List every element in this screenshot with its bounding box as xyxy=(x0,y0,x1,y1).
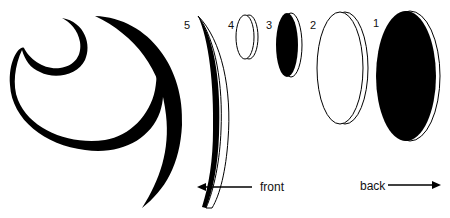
layer-diagram: 5 4 3 2 1 front back xyxy=(0,0,450,218)
layer-1: 1 xyxy=(373,11,440,141)
layer-4: 4 xyxy=(228,15,258,59)
layer-2-label: 2 xyxy=(310,19,316,31)
diagram-canvas: 5 4 3 2 1 front back xyxy=(0,0,450,218)
front-label: front xyxy=(260,180,285,194)
layer-5: 5 xyxy=(184,16,229,208)
back-arrow: back xyxy=(360,179,441,193)
layer-2: 2 xyxy=(310,12,368,124)
layer-3: 3 xyxy=(266,13,302,77)
back-label: back xyxy=(360,179,386,193)
layer-1-label: 1 xyxy=(373,17,379,29)
layer-4-label: 4 xyxy=(228,19,234,31)
assembled-shape xyxy=(10,16,182,208)
layer-3-label: 3 xyxy=(266,19,272,31)
layer-5-label: 5 xyxy=(184,19,190,31)
